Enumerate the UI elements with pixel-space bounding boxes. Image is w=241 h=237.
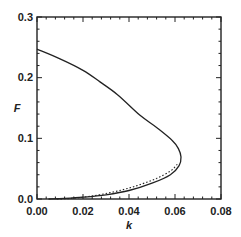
series-dotted-line [55,164,177,199]
x-tick-0: 0.00 [26,205,47,217]
y-tick-3: 0.3 [18,11,33,23]
axis-ticks [37,17,221,199]
x-tick-1: 0.02 [72,205,93,217]
chart: 0.00 0.02 0.04 0.06 0.08 0.0 0.1 0.2 0.3… [0,0,241,237]
series [37,49,181,199]
y-tick-0: 0.0 [18,193,33,205]
y-tick-1: 0.1 [18,132,33,144]
plot-frame [37,17,221,199]
y-axis-label: F [14,102,21,114]
x-tick-2: 0.04 [118,205,140,217]
plot-border [37,17,221,199]
x-tick-3: 0.06 [164,205,185,217]
y-tick-2: 0.2 [18,71,33,83]
x-axis-label: k [126,219,133,231]
x-tick-4: 0.08 [210,205,231,217]
